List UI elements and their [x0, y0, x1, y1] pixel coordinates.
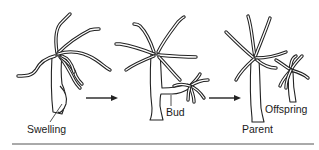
label-offspring: Offspring: [265, 104, 307, 115]
arrow-2: [209, 95, 241, 101]
label-bud: Bud: [166, 107, 185, 118]
arrow-1: [86, 95, 118, 101]
hydra-stage-1: [18, 14, 110, 122]
label-parent: Parent: [242, 124, 273, 135]
hydra-offspring: [276, 56, 308, 102]
label-swelling: Swelling: [27, 124, 66, 135]
hydra-stage-2: [116, 17, 208, 120]
